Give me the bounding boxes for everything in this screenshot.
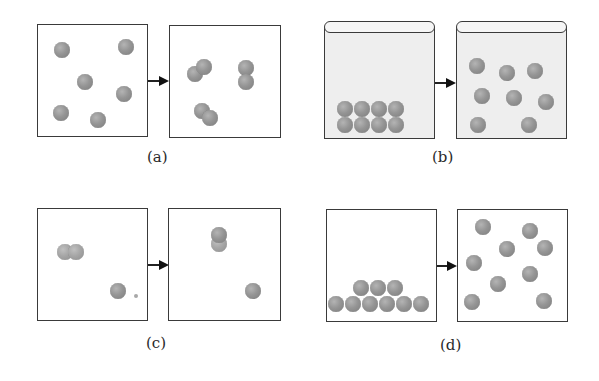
particle: [413, 296, 429, 312]
panel-label-d: (d): [440, 336, 461, 354]
particle: [538, 94, 554, 110]
particle: [522, 266, 538, 282]
particle: [371, 101, 387, 117]
particle: [370, 280, 386, 296]
arrow-icon: [148, 264, 167, 266]
panel-label-b: (b): [432, 148, 453, 166]
particle: [506, 90, 522, 106]
particle: [379, 296, 395, 312]
particle: [337, 101, 353, 117]
particle: [110, 283, 126, 299]
panel-label-a: (a): [147, 148, 168, 166]
panel-c-after-box: [168, 208, 281, 321]
particle: [470, 117, 486, 133]
particle: [238, 74, 254, 90]
particle: [77, 74, 93, 90]
particle: [118, 39, 134, 55]
particle: [466, 255, 482, 271]
particle: [527, 63, 543, 79]
panel-label-c: (c): [146, 334, 166, 352]
panel-b-after-container: [456, 27, 567, 139]
particle: [388, 101, 404, 117]
particle: [396, 296, 412, 312]
small-particle: [134, 294, 138, 298]
panel-a-after-box: [169, 25, 281, 138]
particle: [371, 117, 387, 133]
particle: [196, 59, 212, 75]
particle: [245, 283, 261, 299]
particle: [345, 296, 361, 312]
particle: [328, 296, 344, 312]
particle: [521, 117, 537, 133]
particle: [337, 117, 353, 133]
particle: [474, 88, 490, 104]
particle: [353, 280, 369, 296]
particle: [522, 223, 538, 239]
panel-b-before-rim: [324, 21, 435, 33]
particle: [53, 105, 69, 121]
particle: [211, 227, 227, 243]
particle: [464, 294, 480, 310]
particle: [354, 117, 370, 133]
arrow-icon: [437, 265, 455, 267]
particle: [116, 86, 132, 102]
particle: [68, 244, 84, 260]
particle: [499, 241, 515, 257]
particle: [469, 58, 485, 74]
particle: [354, 101, 370, 117]
particle: [536, 293, 552, 309]
panel-d-before-box: [326, 209, 437, 322]
arrow-icon: [435, 82, 454, 84]
arrow-icon: [148, 80, 167, 82]
particle: [490, 276, 506, 292]
panel-a-before-box: [37, 24, 148, 137]
panel-b-after-rim: [456, 21, 567, 33]
particle: [387, 280, 403, 296]
particle: [499, 65, 515, 81]
particle: [362, 296, 378, 312]
particle: [90, 112, 106, 128]
panel-b-before-container: [324, 27, 435, 139]
particle: [202, 110, 218, 126]
panel-d-after-box: [457, 209, 568, 322]
particle: [475, 219, 491, 235]
particle: [388, 117, 404, 133]
particle: [54, 42, 70, 58]
particle: [537, 240, 553, 256]
panel-c-before-box: [37, 208, 148, 321]
